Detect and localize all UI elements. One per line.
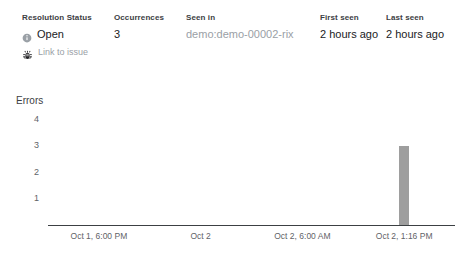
x-axis-tick-label: Oct 2	[190, 231, 210, 242]
chart-bar[interactable]	[399, 146, 409, 225]
column-header-occurrences: Occurrences	[114, 12, 164, 23]
chart-plot-area: 4321	[48, 120, 455, 225]
x-axis-tick-label: Oct 2, 1:16 PM	[376, 231, 433, 242]
column-header-seen-in: Seen in	[186, 12, 294, 23]
summary-column-resolution-status: Resolution Status Open	[22, 12, 92, 58]
last-seen-value: 2 hours ago	[386, 27, 444, 41]
summary-column-occurrences: Occurrences 3	[114, 12, 164, 41]
y-axis-tick-label: 1	[34, 194, 39, 203]
link-to-issue-label: Link to issue	[38, 46, 88, 58]
chart-x-axis-line	[48, 225, 455, 226]
resolution-status-value: Open	[22, 27, 92, 41]
x-axis-tick-label: Oct 1, 6:00 PM	[71, 231, 128, 242]
errors-chart: Errors 4321 Oct 1, 6:00 PMOct 2Oct 2, 6:…	[0, 70, 466, 262]
column-header-first-seen: First seen	[320, 12, 378, 23]
info-circle-icon	[22, 29, 32, 39]
summary-column-seen-in: Seen in demo:demo-00002-rix	[186, 12, 294, 41]
status-badge: Open	[37, 27, 64, 41]
y-axis-tick-label: 2	[34, 168, 39, 177]
summary-column-last-seen: Last seen 2 hours ago	[386, 12, 444, 41]
seen-in-value: demo:demo-00002-rix	[186, 27, 294, 41]
issue-summary-row: Resolution Status Open	[0, 0, 466, 70]
link-to-issue-button[interactable]: Link to issue	[22, 46, 92, 58]
x-axis-tick-label: Oct 2, 6:00 AM	[274, 231, 330, 242]
summary-column-first-seen: First seen 2 hours ago	[320, 12, 378, 41]
column-header-last-seen: Last seen	[386, 12, 444, 23]
y-axis-tick-label: 3	[34, 141, 39, 150]
column-header-resolution-status: Resolution Status	[22, 12, 92, 23]
y-axis-tick-label: 4	[34, 115, 39, 124]
bug-icon	[22, 47, 33, 58]
first-seen-value: 2 hours ago	[320, 27, 378, 41]
occurrences-value: 3	[114, 27, 164, 41]
chart-title: Errors	[16, 94, 43, 107]
